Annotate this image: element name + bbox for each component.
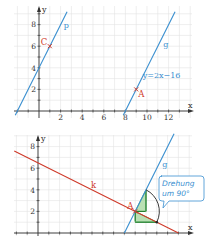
y-tick-label: 8 bbox=[30, 142, 35, 151]
callout-line2: um 90° bbox=[162, 189, 190, 198]
y-tick-label: 4 bbox=[31, 64, 36, 73]
y-tick-label: 6 bbox=[30, 164, 35, 173]
line-p-label: p bbox=[64, 21, 69, 30]
bottom-chart: 2468 x y k g A Drehung um 90° bbox=[14, 134, 204, 236]
x-tick-label: 4 bbox=[80, 113, 85, 122]
point-a-label: A bbox=[137, 89, 145, 99]
bottom-lines bbox=[14, 134, 178, 233]
x-tick-label: 10 bbox=[142, 113, 152, 122]
x-tick-label: 6 bbox=[101, 113, 106, 122]
y-tick-label: 2 bbox=[31, 85, 36, 94]
chart-figure: 246810122468 x y p g y=2x−16 C A 2468 x … bbox=[0, 0, 207, 236]
top-grid bbox=[14, 6, 192, 118]
rotation-arc-arrowhead-icon bbox=[156, 221, 159, 224]
bottom-x-axis-label: x bbox=[188, 223, 193, 232]
y-tick-label: 4 bbox=[30, 186, 35, 195]
y-axis-arrow-icon bbox=[37, 6, 41, 12]
point-c-label: C bbox=[41, 37, 48, 47]
top-x-axis-label: x bbox=[188, 101, 193, 110]
y-tick-label: 6 bbox=[31, 42, 36, 51]
bottom-y-axis-label: y bbox=[40, 134, 46, 143]
line-g-label-bottom: g bbox=[162, 160, 167, 169]
x-tick-label: 12 bbox=[164, 113, 174, 122]
line-k-label: k bbox=[91, 180, 97, 190]
line-g bbox=[123, 12, 175, 116]
y-tick-label: 2 bbox=[30, 207, 35, 216]
y-tick-label: 8 bbox=[31, 20, 36, 29]
rotation-callout: Drehung um 90° bbox=[159, 176, 204, 208]
top-chart: 246810122468 x y p g y=2x−16 C A bbox=[14, 5, 194, 122]
line-p bbox=[15, 12, 67, 116]
line-k bbox=[14, 151, 178, 233]
callout-line1: Drehung bbox=[162, 179, 195, 188]
point-a-label-bottom: A bbox=[126, 201, 134, 211]
x-tick-label: 2 bbox=[58, 113, 63, 122]
top-y-axis-label: y bbox=[41, 5, 47, 14]
equation-label: y=2x−16 bbox=[142, 71, 181, 80]
line-g-label: g bbox=[163, 40, 168, 49]
